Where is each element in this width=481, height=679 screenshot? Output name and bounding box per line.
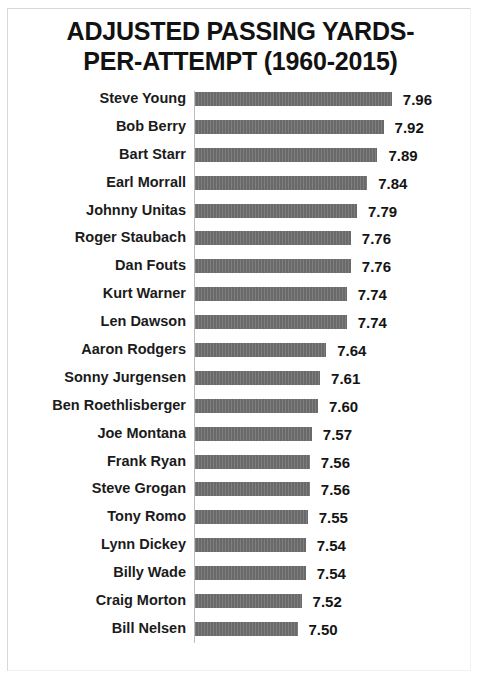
bar-category-label: Steve Grogan <box>16 479 186 498</box>
bar-container: 7.60 <box>195 399 318 413</box>
bar-value-label: 7.84 <box>378 174 407 193</box>
bar-row: Steve Young7.96 <box>0 89 481 117</box>
bar-container: 7.52 <box>195 594 302 608</box>
bar-value-label: 7.74 <box>358 285 387 304</box>
bar-container: 7.57 <box>195 427 312 441</box>
bar-value-label: 7.52 <box>313 592 342 611</box>
bar-category-label: Bart Starr <box>16 145 186 164</box>
bar-category-label: Craig Morton <box>16 591 186 610</box>
bar-row: Roger Staubach7.76 <box>0 228 481 256</box>
bar-category-label: Tony Romo <box>16 507 186 526</box>
bar-container: 7.84 <box>195 176 367 190</box>
bar <box>195 343 326 357</box>
plot-area: Steve Young7.96Bob Berry7.92Bart Starr7.… <box>0 89 481 649</box>
bar-container: 7.96 <box>195 92 392 106</box>
bar-value-label: 7.76 <box>362 229 391 248</box>
bar <box>195 594 302 608</box>
bar-container: 7.55 <box>195 510 308 524</box>
bar-container: 7.76 <box>195 259 351 273</box>
bar-row: Joe Montana7.57 <box>0 424 481 452</box>
bar-row: Bob Berry7.92 <box>0 117 481 145</box>
bar-category-label: Billy Wade <box>16 563 186 582</box>
bar-value-label: 7.54 <box>317 536 346 555</box>
bar-row: Aaron Rodgers7.64 <box>0 340 481 368</box>
bar-row: Bart Starr7.89 <box>0 145 481 173</box>
bar-row-list: Steve Young7.96Bob Berry7.92Bart Starr7.… <box>0 89 481 647</box>
chart-title: ADJUSTED PASSING YARDS- PER-ATTEMPT (196… <box>0 0 481 76</box>
bar <box>195 231 351 245</box>
bar-category-label: Johnny Unitas <box>16 201 186 220</box>
bar-container: 7.79 <box>195 204 357 218</box>
bar-chart: ADJUSTED PASSING YARDS- PER-ATTEMPT (196… <box>0 0 481 679</box>
bar <box>195 371 320 385</box>
bar <box>195 427 312 441</box>
bar-value-label: 7.64 <box>337 341 366 360</box>
bar <box>195 538 306 552</box>
bar-category-label: Dan Fouts <box>16 256 186 275</box>
bar-row: Tony Romo7.55 <box>0 507 481 535</box>
bar-container: 7.92 <box>195 120 384 134</box>
bar <box>195 399 318 413</box>
bar-category-label: Bill Nelsen <box>16 619 186 638</box>
bar-value-label: 7.54 <box>317 564 346 583</box>
bar-value-label: 7.79 <box>368 202 397 221</box>
bar <box>195 566 306 580</box>
bar-category-label: Frank Ryan <box>16 452 186 471</box>
bar-value-label: 7.55 <box>319 508 348 527</box>
bar <box>195 92 392 106</box>
bar-value-label: 7.96 <box>403 90 432 109</box>
bar <box>195 622 298 636</box>
bar <box>195 204 357 218</box>
bar-value-label: 7.76 <box>362 257 391 276</box>
chart-title-line-2: PER-ATTEMPT (1960-2015) <box>26 46 455 76</box>
bar-row: Kurt Warner7.74 <box>0 284 481 312</box>
bar-category-label: Ben Roethlisberger <box>16 396 186 415</box>
bar-row: Sonny Jurgensen7.61 <box>0 368 481 396</box>
bar-container: 7.64 <box>195 343 326 357</box>
bar-row: Billy Wade7.54 <box>0 563 481 591</box>
bar-container: 7.76 <box>195 231 351 245</box>
bar-value-label: 7.50 <box>309 620 338 639</box>
bar-container: 7.56 <box>195 455 310 469</box>
bar-row: Bill Nelsen7.50 <box>0 619 481 647</box>
bar <box>195 259 351 273</box>
bar-container: 7.56 <box>195 482 310 496</box>
bar-row: Steve Grogan7.56 <box>0 479 481 507</box>
bar <box>195 148 377 162</box>
bar <box>195 315 347 329</box>
bar-category-label: Joe Montana <box>16 424 186 443</box>
bar-category-label: Lynn Dickey <box>16 535 186 554</box>
bar-row: Frank Ryan7.56 <box>0 452 481 480</box>
bar <box>195 287 347 301</box>
bar-container: 7.54 <box>195 566 306 580</box>
chart-title-line-1: ADJUSTED PASSING YARDS- <box>26 16 455 46</box>
bar-container: 7.54 <box>195 538 306 552</box>
bar-container: 7.74 <box>195 315 347 329</box>
bar-container: 7.74 <box>195 287 347 301</box>
bar <box>195 510 308 524</box>
bar-row: Ben Roethlisberger7.60 <box>0 396 481 424</box>
bar-container: 7.61 <box>195 371 320 385</box>
bar-row: Dan Fouts7.76 <box>0 256 481 284</box>
bar-container: 7.50 <box>195 622 298 636</box>
bar <box>195 455 310 469</box>
bar-category-label: Aaron Rodgers <box>16 340 186 359</box>
bar-category-label: Kurt Warner <box>16 284 186 303</box>
bar <box>195 176 367 190</box>
bar-category-label: Len Dawson <box>16 312 186 331</box>
bar-category-label: Earl Morrall <box>16 173 186 192</box>
bar-value-label: 7.57 <box>323 425 352 444</box>
bar-value-label: 7.60 <box>329 397 358 416</box>
bar-container: 7.89 <box>195 148 377 162</box>
bar <box>195 120 384 134</box>
bar-category-label: Sonny Jurgensen <box>16 368 186 387</box>
bar-row: Craig Morton7.52 <box>0 591 481 619</box>
bar-value-label: 7.56 <box>321 453 350 472</box>
bar-row: Len Dawson7.74 <box>0 312 481 340</box>
bar <box>195 482 310 496</box>
bar-value-label: 7.61 <box>331 369 360 388</box>
bar-row: Lynn Dickey7.54 <box>0 535 481 563</box>
bar-value-label: 7.56 <box>321 480 350 499</box>
bar-value-label: 7.92 <box>395 118 424 137</box>
bar-value-label: 7.89 <box>388 146 417 165</box>
